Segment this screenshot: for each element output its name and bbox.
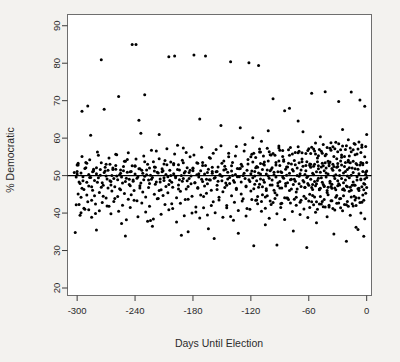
y-tick-label: 40: [51, 208, 62, 219]
y-tick-label: 30: [51, 245, 62, 256]
y-tick-label: 50: [51, 170, 62, 181]
x-tick-label: -120: [241, 305, 260, 316]
x-tick-label: -180: [183, 305, 202, 316]
x-tick-label: 0: [364, 305, 369, 316]
x-tick-label: -240: [126, 305, 145, 316]
y-tick-label: 90: [51, 20, 62, 31]
x-axis-title: Days Until Election: [175, 337, 263, 349]
y-axis-title: % Democratic: [4, 127, 16, 192]
x-tick-label: -300: [68, 305, 87, 316]
y-tick-label: 60: [51, 133, 62, 144]
y-tick-label: 80: [51, 58, 62, 69]
scatter-plot: -300-240-180-120-600 2030405060708090 Da…: [0, 0, 400, 362]
chart-root: -300-240-180-120-600 2030405060708090 Da…: [0, 0, 400, 362]
x-tick-label: -60: [302, 305, 316, 316]
y-tick-label: 20: [51, 283, 62, 294]
y-tick-label: 70: [51, 95, 62, 106]
